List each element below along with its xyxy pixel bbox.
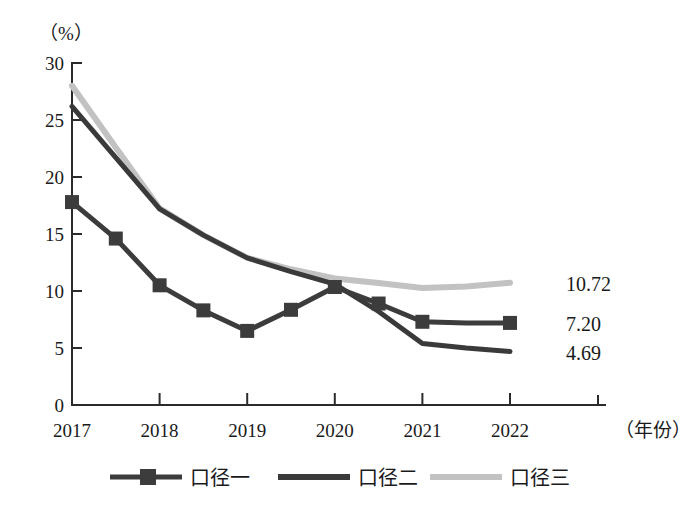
data-point-marker (196, 303, 210, 317)
y-tick-label: 15 (45, 224, 64, 245)
value-label-口径二: 4.69 (566, 342, 601, 364)
y-tick-label: 30 (45, 53, 64, 74)
legend-label-3[interactable]: 口径三 (510, 467, 570, 489)
data-point-marker (503, 316, 517, 330)
data-point-marker (240, 324, 254, 338)
legend-group: 口径一口径二口径三 (110, 467, 570, 489)
data-point-marker (65, 195, 79, 209)
x-tick-label: 2021 (403, 420, 441, 441)
x-tick-label: 2018 (141, 420, 179, 441)
value-label-口径一: 7.20 (566, 313, 601, 335)
legend-label-1[interactable]: 口径一 (190, 467, 250, 489)
y-tick-label: 25 (45, 110, 64, 131)
y-tick-label: 10 (45, 281, 64, 302)
x-axis-title: （年份） (615, 420, 691, 441)
data-point-marker (284, 303, 298, 317)
y-tick-group: 051015202530 (45, 53, 82, 416)
x-tick-label: 2020 (316, 420, 354, 441)
data-point-marker (372, 297, 386, 311)
x-tick-label: 2017 (53, 420, 91, 441)
line-chart: （%） 051015202530 20172018201920202021202… (0, 0, 696, 512)
series-group (65, 86, 517, 352)
y-tick-label: 0 (55, 395, 65, 416)
data-point-marker (328, 280, 342, 294)
x-tick-group (160, 393, 510, 405)
x-category-group: 201720182019202020212022 (53, 420, 529, 441)
x-tick-label: 2022 (491, 420, 529, 441)
y-tick-label: 5 (55, 338, 65, 359)
value-label-group: 10.727.204.69 (566, 273, 611, 364)
data-point-marker (415, 315, 429, 329)
y-tick-label: 20 (45, 167, 64, 188)
data-point-marker (153, 278, 167, 292)
value-label-口径三: 10.72 (566, 273, 611, 295)
x-tick-label: 2019 (228, 420, 266, 441)
chart-container: （%） 051015202530 20172018201920202021202… (0, 0, 696, 512)
legend-label-2[interactable]: 口径二 (358, 467, 418, 489)
y-axis-unit-label: （%） (39, 23, 93, 44)
legend-swatch-marker-1[interactable] (140, 469, 156, 485)
data-point-marker (109, 232, 123, 246)
